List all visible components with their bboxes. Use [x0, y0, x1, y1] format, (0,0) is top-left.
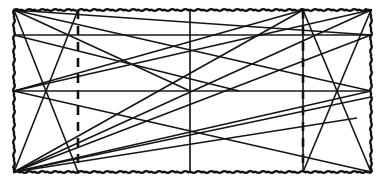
line-diagram-svg: [0, 0, 385, 185]
figure-background: [0, 0, 385, 185]
figure-container: [0, 0, 385, 185]
